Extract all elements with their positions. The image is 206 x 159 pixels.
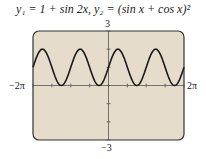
graph-screen [0, 0, 206, 159]
